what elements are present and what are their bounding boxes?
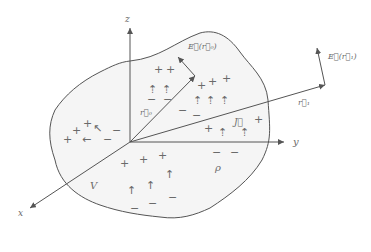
r0-label: r⃗₀ <box>140 108 153 117</box>
svg-text:−: − <box>147 93 156 106</box>
r1-label: r⃗₁ <box>298 98 310 107</box>
svg-text:↑: ↑ <box>146 179 155 192</box>
svg-text:+: + <box>72 124 81 137</box>
z-axis-label: z <box>124 14 130 24</box>
svg-text:+: + <box>254 113 263 126</box>
svg-text:←: ← <box>82 133 91 146</box>
E-r1-label: E⃗(r⃗₁) <box>327 52 357 61</box>
svg-text:⇡: ⇡ <box>240 126 249 139</box>
svg-text:+: + <box>197 79 206 92</box>
svg-text:⇡: ⇡ <box>206 94 215 107</box>
rho-label: ρ <box>214 162 221 173</box>
svg-text:−: − <box>168 191 177 204</box>
y-axis-label: y <box>292 136 299 147</box>
svg-text:−: − <box>230 146 239 159</box>
svg-text:−: − <box>178 104 187 117</box>
svg-text:−: − <box>130 202 139 215</box>
svg-text:⇡: ⇡ <box>220 94 229 107</box>
svg-text:+: + <box>120 157 129 170</box>
E-r0-label: E⃗(r⃗₀) <box>187 42 217 51</box>
svg-text:−: − <box>112 124 121 137</box>
svg-text:+: + <box>83 117 92 130</box>
charge-distribution-diagram: z y x V ρ J⃗ r⃗₀ r⃗₁ E⃗(r⃗₀) E⃗(r⃗₁) ++ … <box>0 0 371 252</box>
x-axis-label: x <box>18 208 23 218</box>
svg-text:+: + <box>166 63 175 76</box>
svg-text:−: − <box>212 146 221 159</box>
svg-text:+: + <box>208 75 217 88</box>
svg-text:+: + <box>204 122 213 135</box>
svg-text:−: − <box>163 93 172 106</box>
svg-text:−: − <box>192 109 201 122</box>
svg-text:−: − <box>103 133 112 146</box>
svg-text:↖: ↖ <box>93 122 102 135</box>
svg-text:↑: ↑ <box>127 184 136 197</box>
svg-text:−: − <box>148 197 157 210</box>
svg-text:+: + <box>139 153 148 166</box>
svg-text:+: + <box>222 72 231 85</box>
E-r1-vector <box>317 48 325 85</box>
svg-text:+: + <box>158 149 167 162</box>
svg-text:↑: ↑ <box>165 168 174 181</box>
svg-text:⇡: ⇡ <box>193 94 202 107</box>
svg-text:⇡: ⇡ <box>218 126 227 139</box>
svg-text:+: + <box>154 63 163 76</box>
svg-text:+: + <box>63 133 72 146</box>
